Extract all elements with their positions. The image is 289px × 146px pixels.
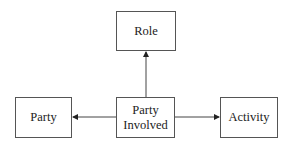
- node-role-label: Role: [134, 24, 158, 39]
- node-party-involved-line-2: Involved: [123, 118, 167, 133]
- node-role[interactable]: Role: [116, 11, 176, 51]
- node-party-label: Party: [30, 110, 56, 125]
- node-activity-label: Activity: [229, 110, 270, 125]
- node-activity[interactable]: Activity: [220, 97, 278, 138]
- node-party-involved-label: Party Involved: [123, 103, 167, 133]
- node-party-involved[interactable]: Party Involved: [116, 97, 175, 138]
- node-party-involved-line-1: Party: [123, 103, 167, 118]
- node-party[interactable]: Party: [15, 97, 72, 138]
